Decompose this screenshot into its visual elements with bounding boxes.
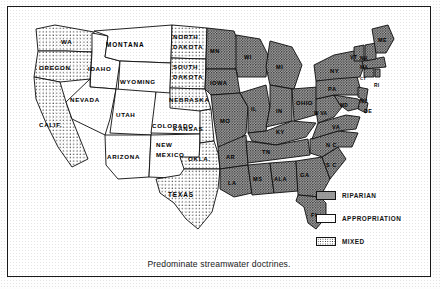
state-ala bbox=[270, 161, 298, 193]
state-me bbox=[372, 25, 394, 53]
legend-swatch-riparian bbox=[316, 191, 336, 200]
state-wi bbox=[236, 35, 268, 77]
legend-label-mixed: MIXED bbox=[342, 238, 365, 245]
state-mi bbox=[266, 41, 302, 89]
figure-frame: WA OREGON CALIF. IDAHO MONTANA WYOMING N… bbox=[7, 6, 431, 277]
state-utah bbox=[110, 89, 156, 135]
state-la bbox=[220, 165, 252, 197]
state-north-dakota bbox=[171, 25, 207, 59]
state-iowa bbox=[205, 69, 240, 95]
state-kansas bbox=[200, 109, 214, 143]
state-texas bbox=[156, 169, 220, 229]
state-de bbox=[358, 99, 368, 113]
legend-label-riparian: RIPARIAN bbox=[342, 192, 376, 199]
state-in bbox=[266, 85, 292, 127]
legend-item-mixed: MIXED bbox=[316, 233, 424, 249]
state-oregon bbox=[34, 51, 92, 82]
map-legend: RIPARIAN APPROPRIATION MIXED bbox=[316, 187, 424, 256]
state-vt bbox=[354, 45, 364, 61]
legend-item-appropriation: APPROPRIATION bbox=[316, 210, 424, 226]
state-wyoming bbox=[118, 61, 171, 94]
state-south-dakota bbox=[170, 58, 206, 89]
legend-label-appropriation: APPROPRIATION bbox=[342, 215, 401, 222]
legend-swatch-mixed bbox=[316, 237, 336, 246]
legend-item-riparian: RIPARIAN bbox=[316, 187, 424, 203]
state-label-ri: RI bbox=[374, 83, 380, 88]
state-arizona bbox=[105, 135, 151, 179]
state-wa bbox=[36, 25, 94, 52]
state-nj bbox=[358, 87, 368, 101]
state-ms bbox=[248, 163, 274, 195]
state-nebraska bbox=[170, 88, 211, 111]
figure-streamwater-doctrines: WA OREGON CALIF. IDAHO MONTANA WYOMING N… bbox=[0, 0, 440, 289]
state-ri bbox=[375, 69, 380, 77]
legend-swatch-appropriation bbox=[316, 214, 336, 223]
state-mn bbox=[206, 28, 240, 69]
figure-caption: Predominate streamwater doctrines. bbox=[8, 259, 430, 269]
